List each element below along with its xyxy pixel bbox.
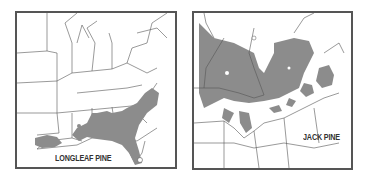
longleaf-map-graphic bbox=[17, 13, 175, 167]
map-title-jackpine: JACK PINE bbox=[303, 132, 340, 142]
longleaf-pine-map: LONGLEAF PINE bbox=[15, 11, 177, 169]
jack-pine-map: JACK PINE bbox=[192, 11, 353, 170]
map-title-longleaf: LONGLEAF PINE bbox=[55, 153, 111, 163]
jackpine-range bbox=[199, 23, 334, 133]
jackpine-map-graphic bbox=[194, 13, 351, 168]
